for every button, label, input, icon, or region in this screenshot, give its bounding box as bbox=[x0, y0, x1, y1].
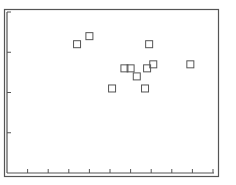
axes bbox=[7, 12, 214, 173]
square-marker bbox=[146, 41, 153, 48]
square-marker bbox=[133, 73, 140, 80]
scatter-chart bbox=[0, 0, 236, 185]
square-marker bbox=[109, 85, 116, 92]
square-marker bbox=[187, 61, 194, 68]
square-marker bbox=[86, 33, 93, 40]
data-points bbox=[74, 33, 194, 92]
square-marker bbox=[74, 41, 81, 48]
square-marker bbox=[142, 85, 149, 92]
axis-ticks bbox=[7, 12, 213, 173]
outer-frame bbox=[5, 10, 219, 177]
